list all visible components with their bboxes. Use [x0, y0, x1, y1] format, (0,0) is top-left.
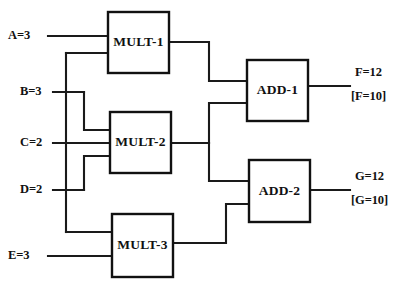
gate-mult1[interactable]: MULT-1 — [108, 12, 169, 73]
input-label-C: C=2 — [20, 135, 42, 149]
input-label-D: D=2 — [20, 182, 42, 196]
input-label-E: E=3 — [8, 248, 29, 262]
gate-add2[interactable]: ADD-2 — [249, 160, 310, 222]
circuit-diagram: MULT-1MULT-2MULT-3ADD-1ADD-2 A=3B=3C=2D=… — [0, 0, 403, 290]
gate-label-add1: ADD-1 — [257, 82, 299, 97]
gate-mult3[interactable]: MULT-3 — [112, 214, 173, 277]
diagram-background — [0, 0, 403, 290]
gate-mult2[interactable]: MULT-2 — [110, 112, 171, 173]
gate-label-add2: ADD-2 — [259, 183, 301, 198]
input-label-B: B=3 — [20, 84, 41, 98]
gate-label-mult1: MULT-1 — [113, 34, 164, 49]
input-label-A: A=3 — [8, 28, 30, 42]
output-bracket-label-G: [G=10] — [351, 193, 388, 207]
circuit-canvas: MULT-1MULT-2MULT-3ADD-1ADD-2 A=3B=3C=2D=… — [0, 0, 403, 290]
gate-label-mult2: MULT-2 — [115, 134, 166, 149]
gate-add1[interactable]: ADD-1 — [247, 60, 308, 121]
output-label-F: F=12 — [355, 65, 382, 79]
gate-label-mult3: MULT-3 — [117, 237, 168, 252]
output-bracket-label-F: [F=10] — [351, 89, 386, 103]
output-label-G: G=12 — [355, 169, 384, 183]
